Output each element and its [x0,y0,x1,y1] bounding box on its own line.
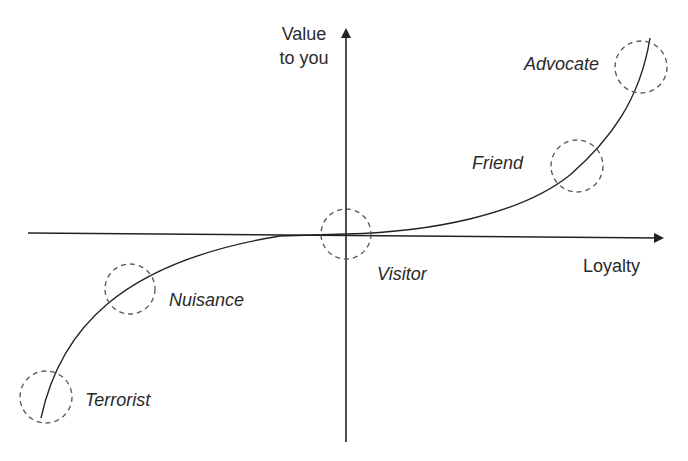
nuisance-circle [105,264,155,314]
stage-label-friend: Friend [472,154,523,172]
stage-label-terrorist: Terrorist [85,391,150,409]
y-axis-label-line1: Value [266,22,342,46]
advocate-circle [615,41,667,93]
stage-label-advocate: Advocate [524,55,599,73]
friend-circle [551,140,603,192]
stage-label-nuisance: Nuisance [169,291,244,309]
y-axis-label-line2: to you [266,46,342,70]
x-axis-label: Loyalty [583,257,640,275]
stage-label-visitor: Visitor [377,265,427,283]
y-axis-label: Value to you [266,22,342,70]
